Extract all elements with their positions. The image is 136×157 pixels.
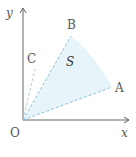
region-s: [23, 36, 112, 120]
y-axis-label: y: [5, 6, 13, 20]
x-axis-label: x: [121, 126, 128, 140]
region-s-label: S: [66, 55, 74, 69]
origin-label: O: [10, 126, 20, 140]
point-b-label: B: [67, 18, 76, 32]
point-c-label: C: [27, 52, 36, 66]
point-a-label: A: [114, 81, 124, 95]
coordinate-diagram: y x O A B C S: [0, 0, 136, 157]
